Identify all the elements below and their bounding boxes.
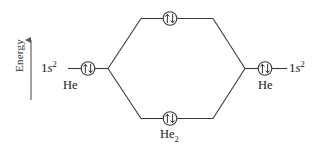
orbital-circle-he-right [258, 62, 272, 76]
species-label-he2-symbol: He [160, 127, 175, 141]
electron-pair-he-right [258, 62, 272, 76]
orbital-circle-bonding [163, 112, 177, 126]
correlation-line-right-up [213, 19, 245, 69]
correlation-line-right-down [213, 69, 245, 119]
species-label-he2-subscript: 2 [175, 134, 179, 144]
species-label-he-right: He [258, 79, 273, 92]
orbital-label-right: 1s2 [289, 60, 305, 74]
electron-pair-antibonding [163, 12, 177, 26]
mo-energy-diagram: Energy 1s2 He 1s2 He He2 [0, 0, 330, 148]
orbital-label-left-superscript: 2 [53, 59, 57, 69]
energy-axis-label: Energy [14, 26, 25, 86]
correlation-line-left-down [108, 69, 141, 119]
correlation-line-left-up [108, 19, 141, 69]
electron-pair-bonding [163, 112, 177, 126]
orbital-label-left: 1s2 [41, 60, 57, 74]
electron-pair-he-left [81, 62, 95, 76]
species-label-he-left: He [63, 79, 78, 92]
orbital-label-right-superscript: 2 [301, 59, 305, 69]
orbital-circle-antibonding [163, 12, 177, 26]
species-label-he2: He2 [160, 128, 179, 143]
orbital-circle-he-left [81, 62, 95, 76]
